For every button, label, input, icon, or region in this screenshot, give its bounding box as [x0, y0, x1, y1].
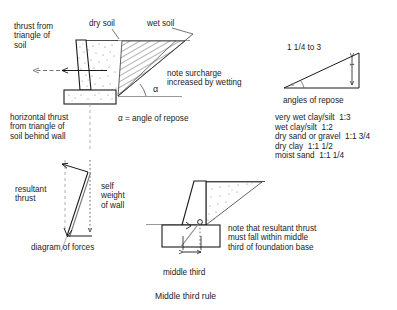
wet-soil-label: wet soil [147, 19, 174, 28]
dry-soil-label: dry soil [89, 19, 115, 28]
angles-of-repose-caption: angles of repose [283, 96, 344, 105]
wall-stem [76, 40, 91, 90]
mt-wall-stem [182, 181, 206, 225]
wall-footing [64, 90, 116, 104]
note-surcharge-label: note surcharge increased by wetting [167, 69, 242, 88]
repose-table-row-3: dry clay 1:1 1/2 [275, 142, 333, 152]
self-weight-label: self weight of wall [101, 182, 125, 210]
wet-soil-leader [172, 28, 193, 34]
middle-third-dimension-label: middle third [163, 268, 205, 277]
resultant-line-b [70, 173, 91, 237]
repose-triangle [284, 53, 359, 88]
horizontal-thrust-label: horizontal thrust from triangle of soil … [10, 113, 68, 141]
repose-table-row-4: moist sand 1:1 1/4 [275, 151, 344, 161]
repose-table-row-1: wet clay/silt 1:2 [275, 123, 333, 133]
dry-soil-leader [112, 29, 119, 39]
alpha-definition-label: α = angle of repose [118, 114, 189, 123]
force-thrust-arrow [62, 164, 88, 172]
resultant-line-a [67, 172, 88, 236]
thrust-from-triangle-label: thrust from triangle of soil [14, 22, 53, 50]
middle-third-rule-caption: Middle third rule [155, 292, 216, 301]
alpha-angle-arc [140, 84, 146, 96]
repose-table-row-2: dry sand or gravel 1:1 3/4 [275, 132, 370, 142]
mt-footing [162, 225, 220, 247]
repose-angle-arc [301, 81, 304, 88]
mt-resultant-node [198, 220, 203, 225]
mt-soil-wedge [206, 182, 262, 225]
repose-angle-symbol: α [291, 80, 294, 89]
repose-triangle-section [284, 53, 359, 88]
repose-table-row-0: very wet clay/silt 1:3 [275, 113, 351, 123]
resultant-thrust-label: resultant thrust [15, 185, 46, 204]
alpha-symbol-main: α [153, 85, 158, 94]
middle-third-note-label: note that resultant thrust must fall wit… [228, 224, 316, 252]
diagram-of-forces-caption: diagram of forces [31, 243, 94, 252]
repose-rise-label: 1 [347, 63, 356, 66]
repose-ratio-label: 1 1/4 to 3 [287, 43, 321, 52]
retaining-wall-diagram-figure: thrust from triangle of soil dry soil we… [0, 0, 397, 310]
force-diagram-section [61, 160, 92, 252]
